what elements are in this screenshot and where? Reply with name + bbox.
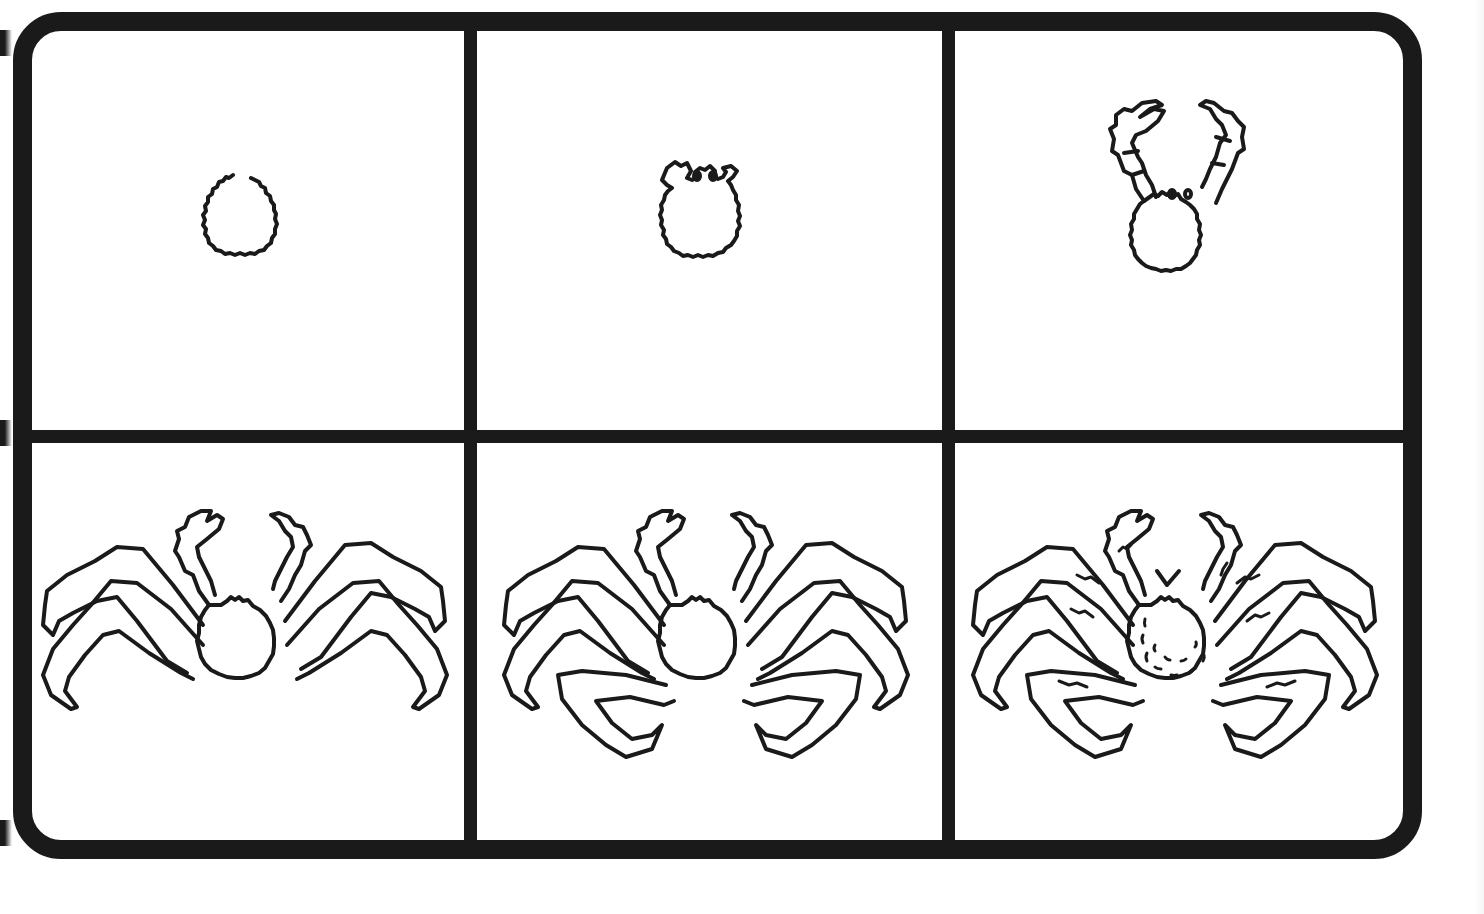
crab-body-with-claws-icon — [1094, 91, 1264, 331]
step-4-panel — [32, 443, 464, 840]
step-1-panel — [32, 31, 464, 430]
step-2-panel — [477, 31, 942, 430]
row-divider — [32, 430, 1403, 443]
crab-all-legs-icon — [490, 495, 930, 775]
step-3-panel — [955, 31, 1403, 430]
page-edge-mark-middle — [0, 420, 12, 446]
step-5-panel — [477, 443, 942, 840]
page-edge-mark-top — [0, 30, 12, 56]
crab-body-with-eyes-icon — [645, 156, 775, 306]
page-edge-mark-bottom — [0, 820, 12, 846]
steps-frame — [13, 12, 1422, 859]
step-6-panel — [955, 443, 1403, 840]
crab-detailed-icon — [959, 495, 1399, 775]
crab-body-outline-icon — [188, 161, 308, 301]
crab-claws-and-legs-icon — [33, 495, 463, 765]
page-edge-shadow — [1474, 0, 1484, 914]
